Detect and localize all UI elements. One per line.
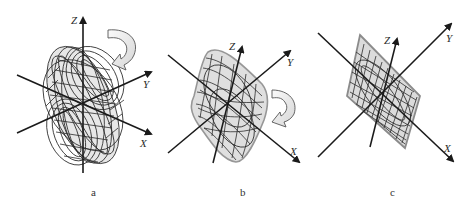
x-axis-label-a: X	[139, 137, 148, 149]
panel-a: Z Y X a	[17, 14, 151, 198]
x-axis-label-b: X	[289, 145, 298, 157]
x-axis-label-c: X	[443, 142, 452, 154]
panel-c: Z Y X c	[318, 24, 454, 198]
y-axis-label-b: Y	[287, 56, 295, 68]
figure-canvas: Z Y X a	[0, 0, 468, 208]
z-axis-label-c: Z	[384, 34, 391, 46]
z-axis-label-a: Z	[71, 14, 78, 26]
z-axis-label-b: Z	[229, 40, 236, 52]
x-axis-c	[318, 33, 453, 161]
rotation-arrow-icon-b	[272, 90, 295, 127]
panel-caption-a: a	[91, 186, 96, 198]
panel-caption-b: b	[240, 186, 246, 198]
y-axis-label-a: Y	[143, 78, 151, 90]
panel-caption-c: c	[390, 186, 395, 198]
y-axis-label-c: Y	[446, 32, 454, 44]
panel-b: Z Y X b	[168, 40, 299, 198]
rotation-arrow-icon-a	[108, 30, 136, 70]
